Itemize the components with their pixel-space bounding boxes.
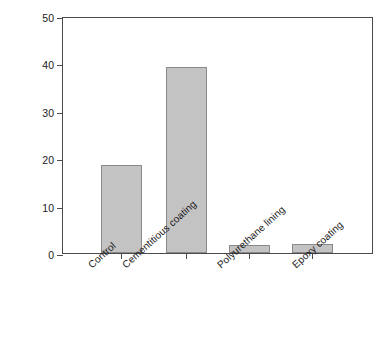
x-tick-0	[121, 253, 122, 259]
y-tick-label-10: 10	[42, 202, 54, 214]
y-tick-label-40: 40	[42, 59, 54, 71]
x-tick-1	[186, 253, 187, 259]
y-tick-label-20: 20	[42, 154, 54, 166]
y-tick-label-30: 30	[42, 107, 54, 119]
plot-area: 0 10 20 30 40 50	[62, 17, 373, 254]
figure: MASS LOSS, g 0 10 20 30 40 50 Co	[0, 0, 388, 343]
y-tick-label-50: 50	[42, 12, 54, 24]
y-tick-10: 10	[57, 208, 63, 209]
y-tick-30: 30	[57, 113, 63, 114]
y-tick-label-0: 0	[48, 249, 54, 261]
y-tick-20: 20	[57, 160, 63, 161]
y-tick-40: 40	[57, 65, 63, 66]
bar-control	[101, 165, 142, 253]
y-tick-0: 0	[57, 255, 63, 256]
x-tick-2	[249, 253, 250, 259]
y-tick-50: 50	[57, 18, 63, 19]
